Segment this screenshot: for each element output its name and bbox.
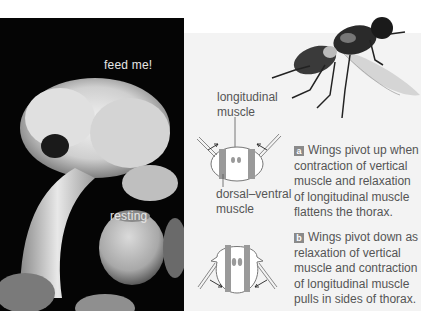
caption-b: bWings pivot down as relaxation of verti…	[294, 230, 422, 308]
anemone-illustration	[0, 18, 184, 311]
badge-b: b	[294, 233, 304, 243]
label-line: muscle	[216, 202, 291, 217]
wings-down-diagram	[195, 235, 290, 305]
label-line: longitudinal	[217, 90, 278, 105]
label-resting: resting	[110, 209, 147, 223]
badge-a: a	[294, 146, 304, 156]
caption-a: aWings pivot up when contraction of vert…	[294, 143, 422, 221]
sea-anemone-photo: feed me! resting	[0, 18, 184, 311]
label-dorsal-ventral-muscle: dorsal–ventral muscle	[216, 187, 291, 217]
caption-a-text: Wings pivot up when contraction of verti…	[294, 143, 419, 219]
label-line: dorsal–ventral	[216, 187, 291, 202]
label-feed-me: feed me!	[104, 58, 152, 72]
housefly-illustration	[270, 10, 430, 125]
caption-b-text: Wings pivot down as relaxation of vertic…	[294, 230, 418, 306]
